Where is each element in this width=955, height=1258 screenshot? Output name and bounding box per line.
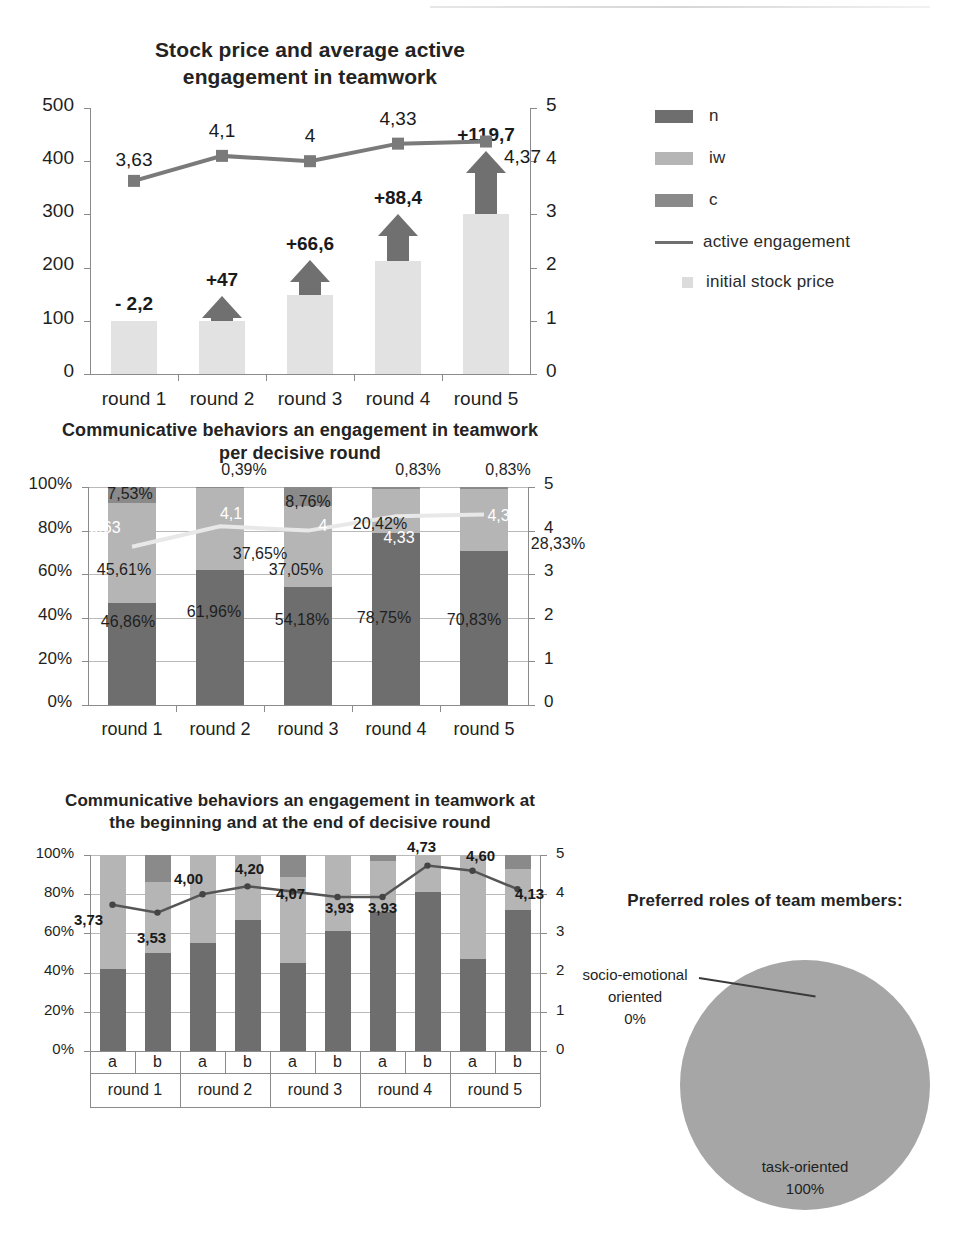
legend-item-initial-stock-price: initial stock price	[655, 272, 835, 292]
x-group-divider	[90, 1073, 540, 1074]
y-tick-label: 300	[32, 200, 74, 222]
y2-tick	[531, 108, 537, 109]
legend-item-iw: iw	[655, 148, 725, 168]
y-tick-label: 80%	[30, 883, 74, 900]
x-tick-label: round 3	[266, 388, 354, 410]
pie-label-socio-line2: oriented	[565, 988, 705, 1005]
x-tick-label: round 5	[442, 388, 530, 410]
y-tick-label: 60%	[26, 561, 72, 581]
y2-tick	[529, 705, 535, 706]
x-tick-label: round 3	[264, 719, 352, 740]
y-tick-label: 100%	[30, 844, 74, 861]
y2-tick-label: 2	[546, 253, 586, 275]
segment-label-c: 0,39%	[194, 461, 294, 479]
pie-label-task-pct: 100%	[715, 1180, 895, 1197]
engagement-label: 4,33	[374, 529, 424, 547]
y2-tick	[529, 531, 535, 532]
engagement-label: 4,00	[165, 870, 213, 887]
x-tick-label: round 5	[440, 719, 528, 740]
chart2-plot-area: 0%20%40%60%80%100%01234546,86%45,61%7,53…	[88, 487, 528, 705]
pie-label-task: task-oriented	[715, 1158, 895, 1175]
x-group-label: round 3	[270, 1081, 360, 1099]
x-separator	[352, 705, 353, 712]
legend-label: n	[709, 106, 719, 126]
engagement-label: 3,73	[65, 911, 113, 928]
legend-swatch	[655, 110, 693, 123]
preferred-roles-pie-chart: Preferred roles of team members: socio-e…	[570, 880, 955, 1258]
y2-axis	[528, 487, 529, 706]
x-group-label: round 1	[90, 1081, 180, 1099]
engagement-label: 4,1	[206, 505, 256, 523]
x-tick-label: round 1	[90, 388, 178, 410]
engagement-label: 4	[264, 125, 356, 147]
x-tick-label: a	[180, 1053, 225, 1071]
engagement-label: 4,37	[478, 507, 528, 525]
y2-tick-label: 3	[546, 200, 586, 222]
engagement-label: 3,93	[359, 899, 407, 916]
segment-label-iw: 45,61%	[74, 561, 174, 579]
y-tick-label: 200	[32, 253, 74, 275]
y2-tick	[541, 933, 547, 934]
engagement-line	[90, 855, 540, 1051]
pie-label-socio-line1: socio-emotional	[565, 966, 705, 983]
y2-tick	[529, 487, 535, 488]
x-separator	[442, 374, 443, 381]
x-group-bottom	[90, 1107, 540, 1108]
engagement-label: 3,63	[88, 149, 180, 171]
x-tick-label: round 1	[88, 719, 176, 740]
chart4-title: Preferred roles of team members:	[620, 890, 910, 912]
segment-label-c: 0,83%	[368, 461, 468, 479]
engagement-label: 4,60	[457, 847, 505, 864]
page-header-rule	[430, 6, 930, 8]
x-separator	[178, 374, 179, 381]
engagement-label: 4,33	[352, 108, 444, 130]
x-separator	[176, 705, 177, 712]
x-tick-label: b	[135, 1053, 180, 1071]
y2-tick-label: 0	[544, 692, 584, 712]
y-tick-label: 100	[32, 307, 74, 329]
chart1-title: Stock price and average active engagemen…	[95, 36, 525, 91]
y2-tick-label: 0	[546, 360, 586, 382]
x-tick-label: a	[360, 1053, 405, 1071]
segment-label-c: 0,83%	[458, 461, 558, 479]
chart2-title: Communicative behaviors an engagement in…	[60, 419, 540, 466]
engagement-label: 3,53	[128, 929, 176, 946]
y-tick	[84, 374, 90, 375]
pie-label-socio-pct: 0%	[565, 1010, 705, 1027]
legend-label: iw	[709, 148, 725, 168]
y-tick-label: 20%	[26, 649, 72, 669]
legend-label: initial stock price	[706, 272, 835, 292]
y2-tick-label: 5	[556, 844, 596, 861]
engagement-label: 4,1	[176, 120, 268, 142]
engagement-label: 3,63	[80, 519, 130, 537]
segment-label-n: 70,83%	[424, 611, 524, 629]
segment-label-n: 46,86%	[78, 613, 178, 631]
y2-tick	[531, 214, 537, 215]
legend-item-c: c	[655, 190, 718, 210]
x-tick-label: a	[270, 1053, 315, 1071]
segment-label-n: 61,96%	[164, 603, 264, 621]
y-tick-label: 0%	[30, 1040, 74, 1057]
y-tick-label: 40%	[26, 605, 72, 625]
chart1-plot-area: 0100200300400500012345- 2,2+47+66,6+88,4…	[90, 108, 530, 374]
x-tick-label: b	[495, 1053, 540, 1071]
segment-label-iw: 37,05%	[246, 561, 346, 579]
engagement-label: 4,20	[226, 860, 274, 877]
communicative-behaviors-begin-end-chart: Communicative behaviors an engagement in…	[0, 790, 600, 1190]
y2-tick	[529, 661, 535, 662]
x-tick-label: round 4	[352, 719, 440, 740]
y-tick-label: 400	[32, 147, 74, 169]
y2-tick	[541, 1012, 547, 1013]
legend-label: active engagement	[703, 232, 850, 252]
chart1-legend: niwcactive engagementinitial stock price	[655, 106, 945, 296]
legend-square	[682, 277, 693, 288]
y-tick-label: 100%	[26, 474, 72, 494]
chart3-plot-area: 0%20%40%60%80%100%0123453,733,534,004,20…	[90, 855, 540, 1051]
y2-tick-label: 1	[544, 649, 584, 669]
legend-line	[655, 241, 693, 244]
engagement-label: 3,93	[316, 899, 364, 916]
y2-tick	[529, 574, 535, 575]
y-tick-label: 80%	[26, 518, 72, 538]
x-separator	[266, 374, 267, 381]
x-separator	[354, 374, 355, 381]
